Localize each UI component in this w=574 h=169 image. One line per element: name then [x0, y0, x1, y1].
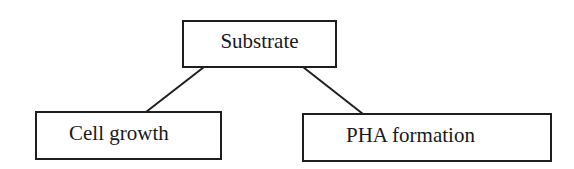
edge-substrate-to-pha-formation	[303, 67, 363, 114]
node-substrate: Substrate	[182, 20, 337, 68]
flow-diagram: Substrate Cell growth PHA formation	[0, 0, 574, 169]
node-cell-growth: Cell growth	[35, 111, 222, 160]
node-substrate-label: Substrate	[220, 31, 298, 52]
edge-substrate-to-cell-growth	[146, 67, 204, 112]
node-cell-growth-label: Cell growth	[69, 123, 169, 144]
node-pha-formation-label: PHA formation	[346, 125, 475, 146]
node-pha-formation: PHA formation	[302, 113, 552, 162]
